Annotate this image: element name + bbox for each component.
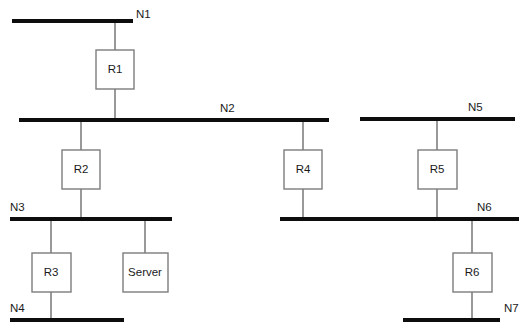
network-diagram: R1R2R3ServerR4R5R6 N1N2N3N4N5N6N7 xyxy=(0,0,529,333)
device-server[interactable]: Server xyxy=(123,253,168,292)
device-label-r5: R5 xyxy=(430,163,445,175)
device-label-server: Server xyxy=(128,266,162,278)
network-label-n6: N6 xyxy=(477,201,492,213)
device-r3[interactable]: R3 xyxy=(32,253,71,292)
device-box-group: R1R2R3ServerR4R5R6 xyxy=(32,50,492,292)
network-label-n7: N7 xyxy=(504,302,519,314)
device-r6[interactable]: R6 xyxy=(453,253,492,292)
device-r5[interactable]: R5 xyxy=(418,150,457,189)
device-r4[interactable]: R4 xyxy=(284,150,322,189)
network-label-n3: N3 xyxy=(10,201,25,213)
device-label-r4: R4 xyxy=(296,163,311,175)
device-r1[interactable]: R1 xyxy=(96,50,134,89)
device-label-r1: R1 xyxy=(108,63,123,75)
network-label-n1: N1 xyxy=(136,8,151,20)
network-diagram-canvas: R1R2R3ServerR4R5R6 N1N2N3N4N5N6N7 xyxy=(0,0,529,333)
device-label-r6: R6 xyxy=(465,266,480,278)
device-label-r3: R3 xyxy=(44,266,59,278)
network-label-n4: N4 xyxy=(10,302,25,314)
network-label-n5: N5 xyxy=(468,101,483,113)
device-r2[interactable]: R2 xyxy=(62,150,100,189)
device-label-r2: R2 xyxy=(74,163,89,175)
network-label-n2: N2 xyxy=(220,102,235,114)
